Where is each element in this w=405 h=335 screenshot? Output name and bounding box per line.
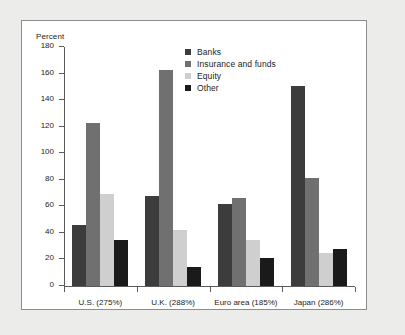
x-axis-label-1: U.K. (288%) (151, 298, 195, 307)
legend-item-equity: Equity (185, 70, 276, 82)
legend-swatch-icon (185, 61, 191, 67)
x-separator-tick (210, 287, 211, 292)
y-tick-label: 100 (41, 147, 54, 156)
y-tick-label: 60 (45, 200, 54, 209)
x-axis-label-0: U.S. (275%) (79, 298, 123, 307)
x-axis-label-3: Japan (286%) (294, 298, 344, 307)
legend-label: Equity (197, 71, 221, 81)
bar (86, 123, 100, 286)
chart-legend: BanksInsurance and fundsEquityOther (185, 46, 276, 94)
bar (218, 204, 232, 286)
x-separator-tick (137, 287, 138, 292)
legend-item-other: Other (185, 82, 276, 94)
y-axis-title: Percent (36, 32, 64, 41)
legend-swatch-icon (185, 49, 191, 55)
legend-swatch-icon (185, 73, 191, 79)
bar-chart: Percent 020406080100120140160180 U.S. (2… (22, 21, 366, 309)
y-tick-label: 80 (45, 174, 54, 183)
bar (145, 196, 159, 286)
x-separator-tick (64, 287, 65, 292)
y-tick-label: 20 (45, 253, 54, 262)
legend-label: Other (197, 83, 219, 93)
bar (187, 267, 201, 286)
bar (100, 194, 114, 286)
legend-item-insurance-and-funds: Insurance and funds (185, 58, 276, 70)
x-separator-tick (282, 287, 283, 292)
bar (333, 249, 347, 286)
y-tick-label: 120 (41, 121, 54, 130)
y-tick-label: 180 (41, 41, 54, 50)
legend-item-banks: Banks (185, 46, 276, 58)
bar (291, 86, 305, 286)
legend-swatch-icon (185, 85, 191, 91)
y-tick-label: 140 (41, 94, 54, 103)
bar (232, 198, 246, 286)
bar (260, 258, 274, 286)
x-axis-label-2: Euro area (185%) (214, 298, 277, 307)
bar (159, 70, 173, 286)
x-separator-tick (355, 287, 356, 292)
bar (319, 253, 333, 286)
bar (114, 240, 128, 286)
bar (72, 225, 86, 286)
y-tick-label: 160 (41, 68, 54, 77)
y-tick-label: 0 (50, 280, 54, 289)
y-tick-label: 40 (45, 227, 54, 236)
bar (246, 240, 260, 286)
legend-label: Insurance and funds (197, 59, 276, 69)
legend-label: Banks (197, 47, 221, 57)
bar (305, 178, 319, 286)
bar (173, 230, 187, 286)
chart-panel: Percent 020406080100120140160180 U.S. (2… (21, 20, 367, 310)
